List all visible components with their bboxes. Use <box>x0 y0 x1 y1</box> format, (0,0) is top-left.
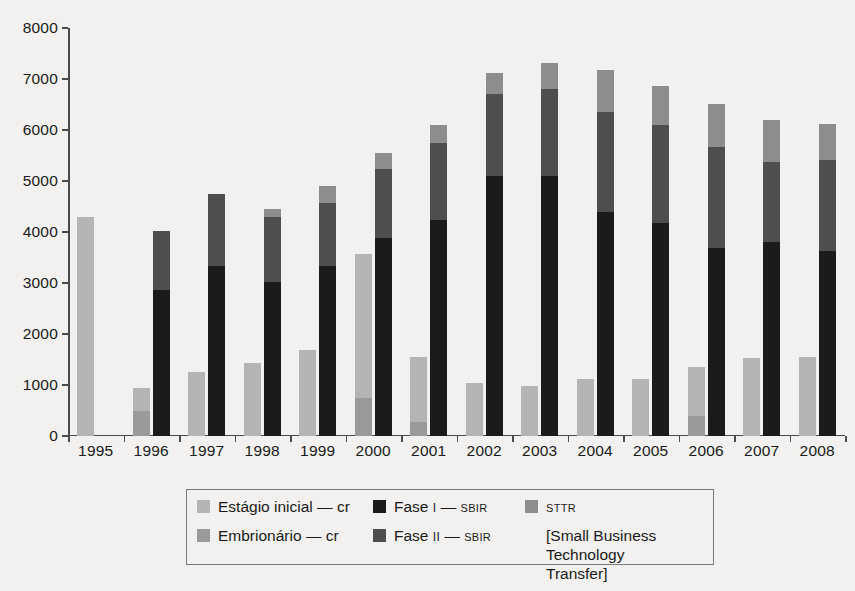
bar-segment <box>244 363 261 436</box>
bar-sbir-sttr <box>652 86 669 436</box>
bar-group <box>734 28 790 436</box>
y-axis-tick-label: 4000 <box>23 223 58 241</box>
bar-segment <box>264 282 281 436</box>
bar-segment <box>799 357 816 436</box>
bar-segment <box>375 238 392 436</box>
bar-sbir-sttr <box>541 63 558 436</box>
x-axis-tick <box>179 436 181 442</box>
bar-group <box>623 28 679 436</box>
bar-capital-de-risco <box>355 254 372 436</box>
bar-segment <box>153 231 170 290</box>
bar-segment <box>264 209 281 217</box>
bar-segment <box>133 411 150 437</box>
bar-capital-de-risco <box>466 383 483 436</box>
legend-swatch-fase-ii <box>373 529 386 542</box>
legend-row-2: Embrionário — cr Fase II — SBIR [Small B… <box>197 528 707 557</box>
legend-label-fase-i: Fase I — SBIR <box>394 499 487 515</box>
legend-swatch-embrionario <box>197 529 210 542</box>
x-axis-tick-label: 2002 <box>467 442 502 460</box>
x-axis-tick-label: 2008 <box>800 442 835 460</box>
bar-segment <box>77 217 94 436</box>
x-axis-tick-label: 2001 <box>411 442 446 460</box>
bar-group <box>790 28 846 436</box>
x-axis-tick-label: 1996 <box>134 442 169 460</box>
x-axis-tick <box>346 436 348 442</box>
bar-group <box>124 28 180 436</box>
bar-sbir-sttr <box>264 209 281 436</box>
x-axis-tick <box>68 436 70 442</box>
x-axis-tick <box>790 436 792 442</box>
x-axis-tick <box>845 436 847 442</box>
legend-swatch-fase-i <box>373 500 386 513</box>
plot-area: 010002000300040005000600070008000 199519… <box>68 28 845 436</box>
chart-root: 010002000300040005000600070008000 199519… <box>0 0 855 591</box>
x-axis-tick-label: 2003 <box>522 442 557 460</box>
bar-segment <box>375 169 392 238</box>
x-axis-tick-label: 1995 <box>78 442 113 460</box>
x-axis-tick-label: 1997 <box>189 442 224 460</box>
bar-segment <box>577 379 594 436</box>
bar-segment <box>541 176 558 436</box>
legend-note-cell: [Small Business Technology Transfer] <box>525 528 685 583</box>
bar-segment <box>541 63 558 89</box>
legend-item-embrionario: Embrionário — cr <box>197 528 373 544</box>
x-axis-tick-label: 2004 <box>578 442 613 460</box>
x-axis-tick <box>512 436 514 442</box>
y-axis-tick-label: 7000 <box>23 70 58 88</box>
bar-segment <box>299 350 316 436</box>
legend-item-fase-i: Fase I — SBIR <box>373 499 525 515</box>
bar-sbir-sttr <box>153 231 170 436</box>
y-axis-tick-label: 0 <box>49 427 58 445</box>
bar-sbir-sttr <box>430 125 447 436</box>
bar-segment <box>264 217 281 282</box>
bar-segment <box>375 153 392 169</box>
bar-segment <box>708 147 725 248</box>
bar-segment <box>430 220 447 436</box>
bar-segment <box>597 112 614 212</box>
bar-segment <box>763 162 780 242</box>
bar-segment <box>541 89 558 176</box>
bar-sbir-sttr <box>763 120 780 436</box>
x-axis-tick <box>124 436 126 442</box>
bar-group <box>179 28 235 436</box>
x-axis-tick-label: 1998 <box>245 442 280 460</box>
legend-label-fase-ii: Fase II — SBIR <box>394 528 491 544</box>
chart-legend: Estágio inicial — cr Fase I — SBIR STTR … <box>186 489 714 565</box>
y-axis-tick-label: 2000 <box>23 325 58 343</box>
x-axis-tick <box>734 436 736 442</box>
bar-segment <box>355 398 372 436</box>
bar-capital-de-risco <box>632 379 649 436</box>
bar-sbir-sttr <box>375 153 392 436</box>
bar-group <box>290 28 346 436</box>
bar-group <box>235 28 291 436</box>
bar-sbir-sttr <box>597 70 614 436</box>
bar-segment <box>763 242 780 436</box>
bar-segment <box>410 357 427 422</box>
bar-group <box>568 28 624 436</box>
bar-segment <box>819 251 836 436</box>
bar-capital-de-risco <box>799 357 816 436</box>
legend-label-sttr: STTR <box>546 499 576 515</box>
legend-swatch-estagio-inicial <box>197 500 210 513</box>
bar-segment <box>188 372 205 436</box>
bar-capital-de-risco <box>299 350 316 436</box>
bar-segment <box>430 125 447 142</box>
bar-segment <box>208 266 225 436</box>
bar-segment <box>688 367 705 415</box>
bar-segment <box>486 176 503 436</box>
x-axis-tick-label: 1999 <box>300 442 335 460</box>
x-axis-tick-label: 2006 <box>689 442 724 460</box>
bar-capital-de-risco <box>521 386 538 436</box>
bar-sbir-sttr <box>208 194 225 436</box>
bar-segment <box>708 104 725 147</box>
legend-item-fase-ii: Fase II — SBIR <box>373 528 525 544</box>
bar-segment <box>486 73 503 93</box>
y-axis-tick-label: 3000 <box>23 274 58 292</box>
x-axis-tick <box>457 436 459 442</box>
x-axis-tick <box>401 436 403 442</box>
x-axis-tick <box>290 436 292 442</box>
bar-sbir-sttr <box>486 73 503 436</box>
bar-capital-de-risco <box>577 379 594 436</box>
legend-row-1: Estágio inicial — cr Fase I — SBIR STTR <box>197 499 707 528</box>
legend-item-estagio-inicial: Estágio inicial — cr <box>197 499 373 515</box>
